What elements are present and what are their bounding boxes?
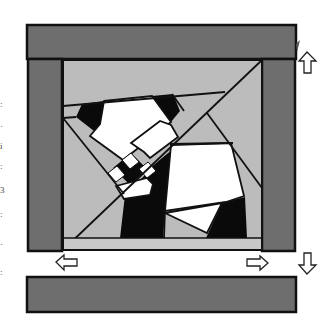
center-bottom-strip bbox=[63, 238, 262, 250]
margin-fragment: 3 bbox=[0, 186, 6, 195]
margin-fragment: : bbox=[0, 210, 6, 219]
press-up-arrow-icon bbox=[299, 52, 316, 73]
white-body-piece bbox=[165, 143, 244, 211]
top-border-strip bbox=[27, 25, 296, 59]
left-border-strip bbox=[28, 59, 62, 251]
press-down-arrow-icon bbox=[299, 253, 316, 274]
margin-fragment: · bbox=[0, 240, 6, 249]
bottom-border-strip bbox=[27, 277, 296, 312]
margin-fragment: i bbox=[0, 142, 6, 151]
quilt-assembly-diagram bbox=[0, 0, 332, 328]
margin-fragment: · bbox=[0, 122, 6, 131]
press-right-arrow-icon bbox=[247, 256, 268, 270]
center-block bbox=[63, 60, 262, 250]
margin-fragment: : bbox=[0, 162, 6, 171]
margin-fragment: : bbox=[0, 100, 6, 109]
margin-fragment: : bbox=[0, 268, 6, 277]
press-left-arrow-icon bbox=[56, 255, 77, 270]
right-border-strip bbox=[262, 59, 295, 251]
